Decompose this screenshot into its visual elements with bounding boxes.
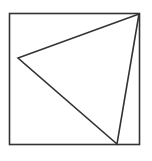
- inscribed-triangle: [18, 14, 139, 144]
- diagram-canvas: [0, 0, 152, 161]
